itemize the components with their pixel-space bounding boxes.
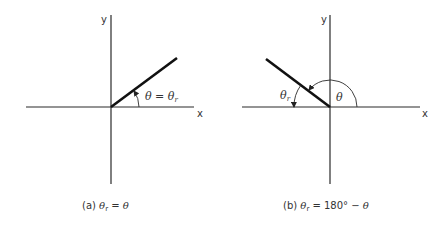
theta-r-label: θr <box>280 89 291 103</box>
ray-line <box>266 59 330 107</box>
angle-arc-theta-r <box>294 85 301 107</box>
y-axis-label: y <box>321 14 327 25</box>
caption-b: (b) θr = 180° − θ <box>283 200 369 213</box>
panel-b: y x θ θr (b) θr = 180° − θ <box>242 14 428 213</box>
x-axis-label: x <box>422 108 428 119</box>
angle-label: θ = θr <box>145 90 178 104</box>
panel-a: y x θ = θr (a) θr = θ <box>26 14 203 213</box>
y-axis-label: y <box>101 14 107 25</box>
angle-arc-theta <box>309 80 357 107</box>
angle-arc-theta <box>134 91 139 107</box>
figure: y x θ = θr (a) θr = θ y x θ θr (b) θr = … <box>0 0 446 225</box>
x-axis-label: x <box>197 108 203 119</box>
caption-a: (a) θr = θ <box>82 200 129 213</box>
theta-label: θ <box>336 91 343 104</box>
